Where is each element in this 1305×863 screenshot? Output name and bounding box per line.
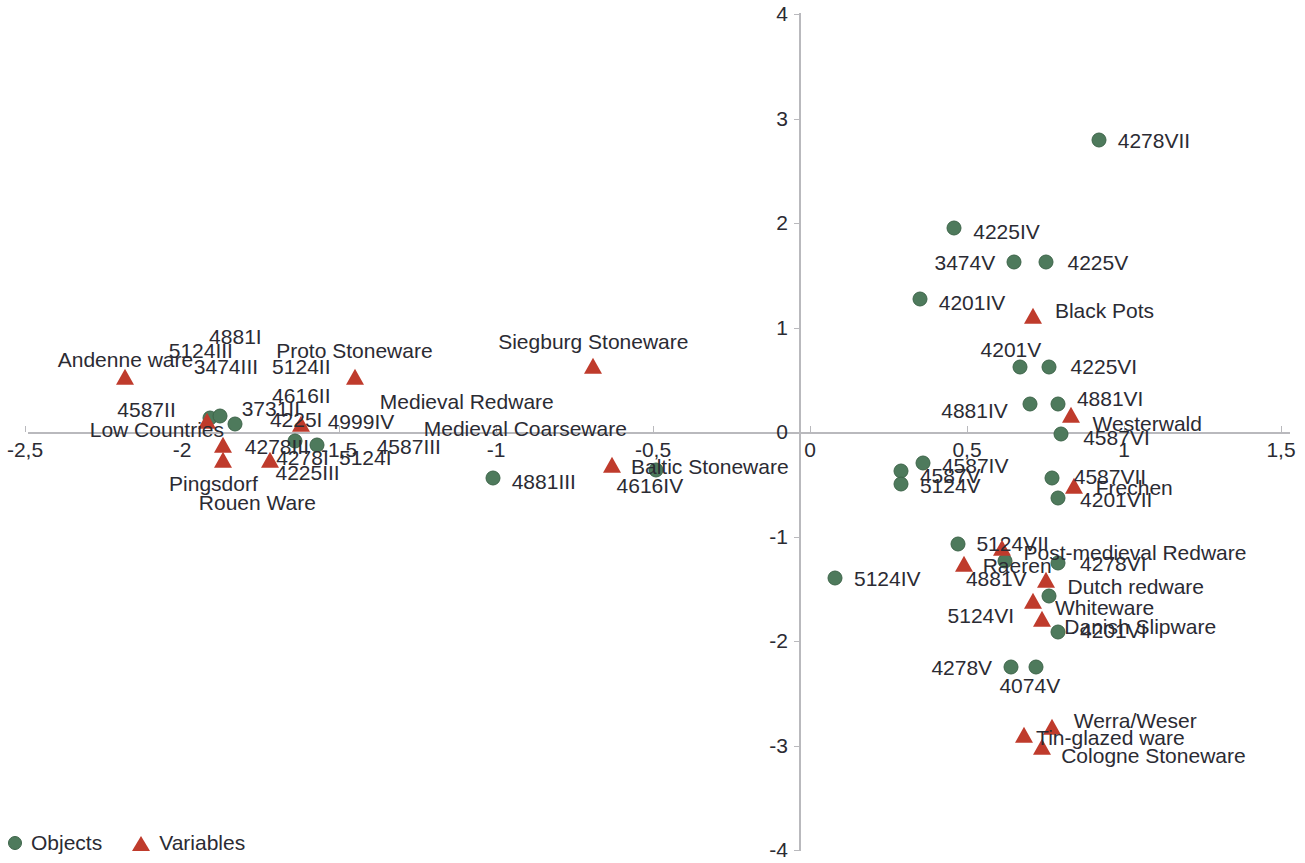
y-tick-mark: [794, 850, 800, 851]
y-tick-label: -4: [764, 838, 788, 862]
point-label: Medieval Coarseware: [424, 417, 627, 438]
variable-marker: [116, 368, 134, 384]
point-label: 4225IV: [973, 221, 1040, 242]
y-tick-mark: [794, 223, 800, 224]
triangle-marker-icon: [132, 836, 150, 851]
object-marker: [828, 571, 843, 586]
object-marker: [950, 536, 965, 551]
legend-item-label: Variables: [159, 831, 245, 855]
legend-item-label: Objects: [31, 831, 102, 855]
point-label: 4201V: [981, 339, 1042, 360]
variable-marker: [1033, 611, 1051, 627]
y-tick-label: 0: [764, 420, 788, 444]
y-tick-label: 3: [764, 107, 788, 131]
point-label: Frechen: [1096, 477, 1173, 498]
object-marker: [1091, 133, 1106, 148]
circle-marker-icon: [8, 836, 22, 850]
object-marker: [1041, 589, 1056, 604]
object-marker: [1022, 396, 1037, 411]
y-tick-mark: [794, 746, 800, 747]
legend-item-objects[interactable]: Objects: [8, 831, 102, 855]
point-label: Post-medieval Redware: [1024, 542, 1247, 563]
point-label: Raeren: [983, 554, 1052, 575]
object-marker: [1013, 360, 1028, 375]
point-label: 5124II: [272, 356, 330, 377]
variable-marker: [214, 452, 232, 468]
point-label: 4278V: [931, 657, 992, 678]
object-marker: [1003, 660, 1018, 675]
variable-marker: [1015, 727, 1033, 743]
point-label: 4278VII: [1118, 130, 1190, 151]
variable-marker: [603, 457, 621, 473]
variable-marker: [1024, 308, 1042, 324]
point-label: 4881IV: [941, 400, 1008, 421]
point-label: Baltic Stoneware: [631, 456, 789, 477]
point-label: 3474V: [935, 251, 996, 272]
y-tick-label: 4: [764, 2, 788, 26]
point-label: 4225V: [1067, 251, 1128, 272]
object-marker: [894, 477, 909, 492]
x-tick-label: -1: [487, 438, 506, 462]
point-label: 4225I: [270, 409, 323, 430]
point-label: Cologne Stoneware: [1061, 744, 1245, 765]
point-label: 4999IV: [328, 410, 395, 431]
y-tick-label: -1: [764, 525, 788, 549]
point-label: 4278III: [245, 435, 309, 456]
object-marker: [1038, 254, 1053, 269]
point-label: 4201IV: [939, 292, 1006, 313]
point-label: Medieval Redware: [380, 390, 554, 411]
x-tick-mark: [967, 426, 968, 432]
object-marker: [1029, 660, 1044, 675]
object-marker: [485, 470, 500, 485]
point-label: 5124V: [920, 475, 981, 496]
point-label: 4225VI: [1071, 356, 1138, 377]
object-marker: [912, 292, 927, 307]
point-label: 3474III: [194, 356, 258, 377]
object-marker: [1044, 470, 1059, 485]
y-tick-label: -3: [764, 734, 788, 758]
object-marker: [1054, 427, 1069, 442]
y-tick-label: 2: [764, 211, 788, 235]
point-label: 5124IV: [854, 568, 921, 589]
x-tick-mark: [810, 426, 811, 432]
y-tick-mark: [794, 641, 800, 642]
variable-marker: [1024, 593, 1042, 609]
point-label: Rouen Ware: [199, 492, 316, 513]
y-tick-mark: [794, 14, 800, 15]
object-marker: [1007, 254, 1022, 269]
y-tick-mark: [794, 432, 800, 433]
y-tick-mark: [794, 119, 800, 120]
y-tick-label: 1: [764, 316, 788, 340]
y-tick-mark: [794, 537, 800, 538]
point-label: Westerwald: [1093, 412, 1202, 433]
x-tick-mark: [653, 426, 654, 432]
scatter-plot-canvas: -2,5-2-1,5-1-0,500,511,5 43210-1-2-3-4 4…: [0, 0, 1305, 863]
object-marker: [1051, 624, 1066, 639]
object-marker: [947, 221, 962, 236]
object-marker: [228, 416, 243, 431]
point-label: 5124VI: [948, 604, 1015, 625]
point-label: Siegburg Stoneware: [498, 331, 688, 352]
point-label: 4616II: [272, 385, 330, 406]
point-label: Danish Slipware: [1064, 616, 1216, 637]
point-label: 4881III: [512, 471, 576, 492]
point-label: 4225III: [275, 461, 339, 482]
point-label: Whiteware: [1055, 596, 1154, 617]
y-tick-mark: [794, 328, 800, 329]
variable-marker: [1062, 407, 1080, 423]
x-tick-label: 1,5: [1266, 438, 1295, 462]
x-tick-label: -2,5: [7, 438, 43, 462]
point-label: 4587II: [117, 399, 175, 420]
point-label: Dutch redware: [1067, 575, 1204, 596]
point-label: 4881VI: [1077, 387, 1144, 408]
x-tick-mark: [25, 426, 26, 432]
object-marker: [1051, 490, 1066, 505]
chart-legend: ObjectsVariables: [8, 831, 245, 855]
point-label: Black Pots: [1055, 299, 1154, 320]
object-marker: [1041, 360, 1056, 375]
legend-item-variables[interactable]: Variables: [132, 831, 245, 855]
point-label: 4587III: [377, 435, 441, 456]
y-tick-label: -2: [764, 629, 788, 653]
x-tick-mark: [1281, 426, 1282, 432]
variable-marker: [584, 358, 602, 374]
